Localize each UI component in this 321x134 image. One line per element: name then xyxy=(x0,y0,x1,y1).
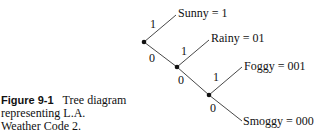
figure-number: Figure 9-1 xyxy=(1,94,54,106)
leaf-foggy: Foggy = 001 xyxy=(244,59,305,73)
leaf-sunny: Sunny = 1 xyxy=(178,6,227,20)
edge-sunny xyxy=(144,15,176,42)
edge-label: 0 xyxy=(210,101,216,115)
caption-line2: representing L.A. xyxy=(1,106,85,120)
leaf-rainy: Rainy = 01 xyxy=(211,31,264,45)
edge-label: 1 xyxy=(213,70,219,84)
node-root xyxy=(142,40,147,45)
node-2 xyxy=(175,65,180,70)
node-3 xyxy=(207,93,212,98)
edge-label: 1 xyxy=(150,17,156,31)
edge-label: 1 xyxy=(181,44,187,58)
edge-label: 0 xyxy=(178,73,184,87)
caption-line3: Weather Code 2. xyxy=(1,119,81,133)
caption-line1: Tree diagram xyxy=(63,93,127,107)
leaf-smoggy: Smoggy = 000 xyxy=(243,114,314,128)
figure-caption: Figure 9-1 Tree diagram representing L.A… xyxy=(1,94,136,133)
edge-label: 0 xyxy=(149,51,155,65)
